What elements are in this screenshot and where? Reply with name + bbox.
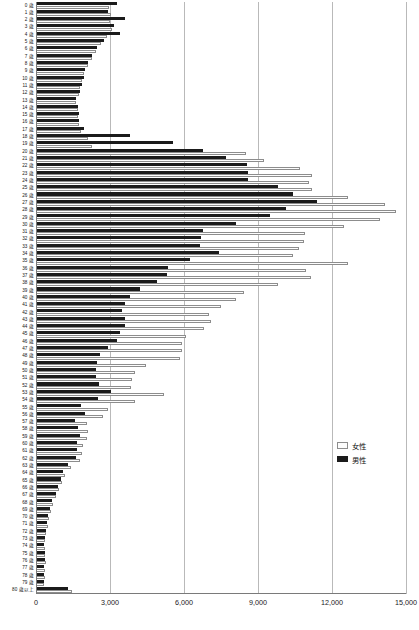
y-axis-tick-label: 56 歳 bbox=[22, 412, 34, 418]
bar-row bbox=[36, 214, 406, 221]
bar-row bbox=[36, 536, 406, 543]
bar-row bbox=[36, 39, 406, 46]
y-axis-tick-label: 25 歳 bbox=[22, 185, 34, 191]
y-axis-tick-label: 18 歳 bbox=[22, 134, 34, 140]
bar-row bbox=[36, 229, 406, 236]
legend-label-female: 女性 bbox=[352, 440, 366, 451]
bar-female bbox=[36, 378, 132, 381]
bar-row bbox=[36, 53, 406, 60]
bar-female bbox=[36, 247, 299, 250]
y-axis-tick-label: 31 歳 bbox=[22, 229, 34, 235]
bar-row bbox=[36, 360, 406, 367]
bar-row bbox=[36, 170, 406, 177]
bar-row bbox=[36, 199, 406, 206]
y-axis-tick-label: 77 歳 bbox=[22, 565, 34, 571]
y-axis-tick-label: 44 歳 bbox=[22, 324, 34, 330]
bar-row bbox=[36, 302, 406, 309]
bar-row bbox=[36, 272, 406, 279]
bar-female bbox=[36, 444, 83, 447]
bar-female bbox=[36, 466, 71, 469]
y-axis-tick-label: 75 歳 bbox=[22, 551, 34, 557]
y-axis-tick-label: 71 歳 bbox=[22, 521, 34, 527]
y-axis-tick-label: 33 歳 bbox=[22, 244, 34, 250]
bar-row bbox=[36, 221, 406, 228]
y-axis-tick-label: 64 歳 bbox=[22, 470, 34, 476]
bar-female bbox=[36, 93, 79, 96]
plot-area bbox=[36, 2, 406, 594]
y-axis-tick-label: 69 歳 bbox=[22, 507, 34, 513]
bar-female bbox=[36, 269, 306, 272]
bar-row bbox=[36, 470, 406, 477]
y-axis-tick-label: 65 歳 bbox=[22, 478, 34, 484]
bar-row bbox=[36, 346, 406, 353]
bar-female bbox=[36, 547, 45, 550]
bar-female bbox=[36, 364, 146, 367]
bar-female bbox=[36, 283, 278, 286]
y-axis-tick-label: 20 歳 bbox=[22, 149, 34, 155]
bar-female bbox=[36, 408, 108, 411]
bar-female bbox=[36, 327, 204, 330]
bar-row bbox=[36, 550, 406, 557]
y-axis-tick-label: 46 歳 bbox=[22, 339, 34, 345]
bar-female bbox=[36, 357, 180, 360]
y-axis-tick-label: 13 歳 bbox=[22, 98, 34, 104]
bar-row bbox=[36, 426, 406, 433]
bar-female bbox=[36, 123, 79, 126]
bar-female bbox=[36, 459, 80, 462]
y-axis-tick-label: 38 歳 bbox=[22, 280, 34, 286]
y-axis-tick-label: 53 歳 bbox=[22, 390, 34, 396]
y-axis-tick-label: 34 歳 bbox=[22, 251, 34, 257]
y-axis-tick-label: 26 歳 bbox=[22, 193, 34, 199]
y-axis-tick-label: 28 歳 bbox=[22, 207, 34, 213]
bar-row bbox=[36, 265, 406, 272]
bar-row bbox=[36, 2, 406, 9]
bar-row bbox=[36, 126, 406, 133]
bar-row bbox=[36, 565, 406, 572]
bar-female bbox=[36, 400, 135, 403]
bar-female bbox=[36, 225, 344, 228]
bar-female bbox=[36, 561, 46, 564]
bar-female bbox=[36, 210, 396, 213]
y-axis-tick-label: 16 歳 bbox=[22, 119, 34, 125]
y-axis-tick-label: 1 歳 bbox=[25, 10, 34, 16]
bar-female bbox=[36, 576, 45, 579]
bar-row bbox=[36, 521, 406, 528]
y-axis-tick-label: 30 歳 bbox=[22, 222, 34, 228]
bar-row bbox=[36, 499, 406, 506]
bar-female bbox=[36, 35, 107, 38]
bar-female bbox=[36, 342, 182, 345]
y-axis-tick-label: 67 歳 bbox=[22, 492, 34, 498]
y-axis-tick-label: 61 歳 bbox=[22, 448, 34, 454]
bar-row bbox=[36, 411, 406, 418]
bar-female bbox=[36, 115, 78, 118]
bar-row bbox=[36, 97, 406, 104]
bar-row bbox=[36, 528, 406, 535]
bar-row bbox=[36, 389, 406, 396]
y-axis-tick-label: 47 歳 bbox=[22, 346, 34, 352]
bar-row bbox=[36, 579, 406, 586]
bar-female bbox=[36, 583, 44, 586]
bar-row bbox=[36, 243, 406, 250]
y-axis-tick-label: 0 歳 bbox=[25, 3, 34, 9]
y-axis-tick-label: 10 歳 bbox=[22, 76, 34, 82]
y-axis-tick-label: 74 歳 bbox=[22, 543, 34, 549]
bar-female bbox=[36, 50, 96, 53]
bar-female bbox=[36, 298, 236, 301]
y-axis-tick-label: 45 歳 bbox=[22, 331, 34, 337]
bar-row bbox=[36, 46, 406, 53]
bar-female bbox=[36, 437, 87, 440]
y-axis-tick-label: 6 歳 bbox=[25, 46, 34, 52]
bar-female bbox=[36, 474, 65, 477]
gridline-15000 bbox=[406, 2, 407, 594]
y-axis-tick-label: 23 歳 bbox=[22, 171, 34, 177]
y-axis-tick-label: 80 歳以上 bbox=[12, 587, 34, 593]
x-axis-tick-label: 12,000 bbox=[321, 598, 343, 607]
bar-female bbox=[36, 174, 312, 177]
bar-female bbox=[36, 79, 82, 82]
bar-female bbox=[36, 569, 45, 572]
bar-female bbox=[36, 335, 186, 338]
bar-row bbox=[36, 367, 406, 374]
bar-female bbox=[36, 386, 131, 389]
y-axis-tick-label: 55 歳 bbox=[22, 405, 34, 411]
y-axis-tick-label: 59 歳 bbox=[22, 434, 34, 440]
